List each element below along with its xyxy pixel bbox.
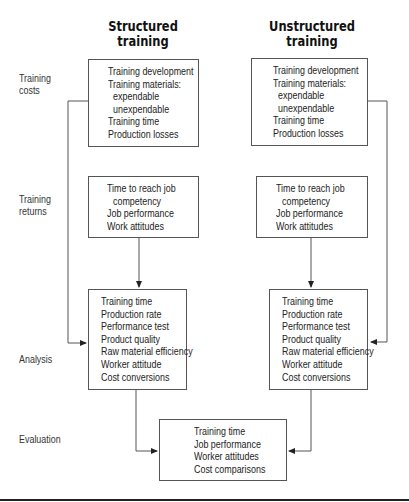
- box-item: expendable: [273, 89, 359, 102]
- box-item: Worker attitude: [101, 358, 193, 371]
- box-item: Cost conversions: [101, 371, 193, 384]
- box-item: Worker attitude: [282, 358, 374, 371]
- box-item: Raw material efficiency: [101, 345, 193, 358]
- box-item: Cost conversions: [282, 371, 374, 384]
- box-item: unexpendable: [108, 103, 194, 116]
- box-item: unexpendable: [273, 102, 359, 115]
- structured-analysis-box: Training time Production rate Performanc…: [88, 289, 187, 390]
- structured-costs-box: Training development Training materials:…: [88, 59, 199, 147]
- box-item: Training time: [273, 114, 359, 127]
- box-item: Time to reach job: [276, 182, 345, 195]
- box-item: Training development: [273, 64, 359, 77]
- unstructured-costs-box: Training development Training materials:…: [251, 58, 368, 146]
- box-item: Raw material efficiency: [282, 345, 374, 358]
- box-item: Performance test: [282, 320, 374, 333]
- box-item: Production losses: [108, 128, 194, 141]
- box-item: competency: [107, 195, 176, 208]
- evaluation-box: Training time Job performance Worker att…: [159, 419, 287, 481]
- box-item: Production rate: [282, 308, 374, 321]
- box-item: Training time: [282, 295, 374, 308]
- unstructured-analysis-box: Training time Production rate Performanc…: [269, 289, 368, 390]
- box-item: competency: [276, 195, 345, 208]
- box-item: Work attitudes: [276, 220, 345, 233]
- box-item: Training development: [108, 65, 194, 78]
- box-item: Production losses: [273, 127, 359, 140]
- box-item: Product quality: [101, 333, 193, 346]
- box-item: Production rate: [101, 308, 193, 321]
- structured-returns-box: Time to reach job competency Job perform…: [88, 176, 199, 238]
- box-item: Training materials:: [108, 78, 194, 91]
- box-item: Work attitudes: [107, 220, 176, 233]
- box-item: expendable: [108, 90, 194, 103]
- box-item: Product quality: [282, 333, 374, 346]
- bottom-rule: [0, 499, 409, 501]
- box-item: Training time: [194, 425, 265, 438]
- box-item: Worker attitudes: [194, 450, 265, 463]
- box-item: Training time: [101, 295, 193, 308]
- box-item: Job performance: [194, 438, 265, 451]
- unstructured-returns-box: Time to reach job competency Job perform…: [256, 176, 368, 238]
- box-item: Time to reach job: [107, 182, 176, 195]
- box-item: Performance test: [101, 320, 193, 333]
- box-item: Cost comparisons: [194, 463, 265, 476]
- box-item: Job performance: [107, 207, 176, 220]
- box-item: Training materials:: [273, 77, 359, 90]
- box-item: Job performance: [276, 207, 345, 220]
- box-item: Training time: [108, 115, 194, 128]
